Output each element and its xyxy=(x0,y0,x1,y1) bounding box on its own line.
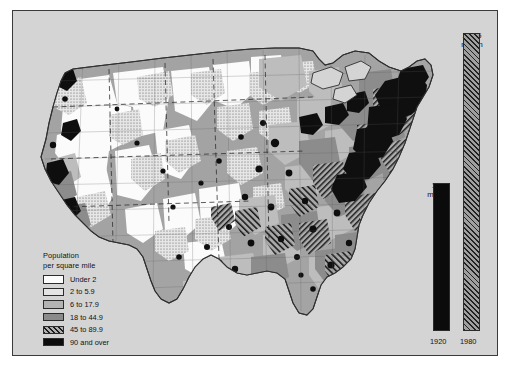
legend-title-line2: per square mile xyxy=(43,261,193,271)
figure-plate: Population per square mile Under 2 2 to … xyxy=(12,10,498,356)
legend-item-6-to-17_9: 6 to 17.9 xyxy=(43,299,193,309)
legend-title-line1: Population xyxy=(43,251,193,261)
bar-1980 xyxy=(463,33,480,331)
map-legend: Population per square mile Under 2 2 to … xyxy=(43,251,193,350)
legend-item-2-to-5_9: 2 to 5.9 xyxy=(43,287,193,297)
legend-swatch-18-to-44_9 xyxy=(43,313,64,321)
legend-label-45-to-89_9: 45 to 89.9 xyxy=(70,325,103,334)
bar-1920-year: 1920 xyxy=(430,337,446,346)
bar-1980-year: 1980 xyxy=(460,337,476,346)
legend-item-under-2: Under 2 xyxy=(43,274,193,284)
legend-swatch-45-to-89_9 xyxy=(43,326,64,334)
legend-item-90-and-over: 90 and over xyxy=(43,337,193,347)
legend-item-45-to-89_9: 45 to 89.9 xyxy=(43,325,193,335)
figure-root: Population per square mile Under 2 2 to … xyxy=(0,0,510,374)
population-bar-chart: 226.5 million 106 million 1920 1980 xyxy=(413,11,498,356)
legend-title: Population per square mile xyxy=(43,251,193,270)
legend-item-18-to-44_9: 18 to 44.9 xyxy=(43,312,193,322)
legend-rows: Under 2 2 to 5.9 6 to 17.9 18 to 44.9 45… xyxy=(43,274,193,347)
legend-label-18-to-44_9: 18 to 44.9 xyxy=(70,313,103,322)
bar-1920 xyxy=(433,183,450,331)
legend-label-6-to-17_9: 6 to 17.9 xyxy=(70,300,99,309)
legend-label-90-and-over: 90 and over xyxy=(70,338,109,347)
legend-label-under-2: Under 2 xyxy=(70,275,96,284)
legend-swatch-6-to-17_9 xyxy=(43,300,64,308)
legend-label-2-to-5_9: 2 to 5.9 xyxy=(70,287,95,296)
legend-swatch-under-2 xyxy=(43,275,64,283)
legend-swatch-90-and-over xyxy=(43,338,64,346)
legend-swatch-2-to-5_9 xyxy=(43,288,64,296)
